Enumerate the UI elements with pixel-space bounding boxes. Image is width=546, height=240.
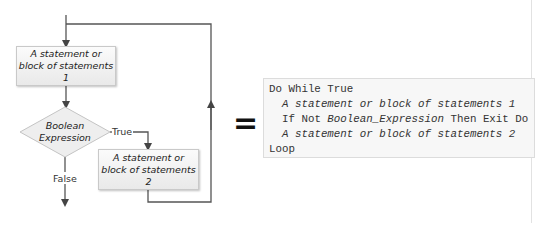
code-line-statement-1: A statement or block of statements 1 bbox=[269, 97, 534, 112]
code-line-exit-condition: If Not Boolean_Expression Then Exit Do bbox=[269, 112, 534, 127]
code-line-do: Do While True bbox=[269, 82, 534, 97]
box1-line-2: block of statements bbox=[19, 60, 113, 72]
true-branch-line bbox=[133, 132, 148, 147]
decision-line-2: Expression bbox=[25, 132, 105, 144]
code-line-statement-2: A statement or block of statements 2 bbox=[269, 127, 534, 142]
box1-line-3: 1 bbox=[63, 72, 69, 84]
true-label: True bbox=[112, 126, 132, 137]
code-line-loop: Loop bbox=[269, 142, 534, 157]
false-label: False bbox=[53, 173, 77, 184]
box2-line-3: 2 bbox=[145, 176, 151, 188]
boolean-expression-token: Boolean_Expression bbox=[327, 113, 444, 125]
box2-line-1: A statement or bbox=[113, 152, 184, 164]
code-block: Do While TrueA statement or block of sta… bbox=[263, 78, 535, 158]
box2-line-2: block of statements bbox=[101, 164, 195, 176]
statement-block-1: A statement or block of statements 1 bbox=[16, 46, 116, 86]
decision-label: Boolean Expression bbox=[25, 120, 105, 144]
box1-line-1: A statement or bbox=[30, 48, 101, 60]
equals-sign: = bbox=[233, 108, 258, 138]
decision-line-1: Boolean bbox=[25, 120, 105, 132]
statement-block-2: A statement or block of statements 2 bbox=[98, 149, 199, 190]
